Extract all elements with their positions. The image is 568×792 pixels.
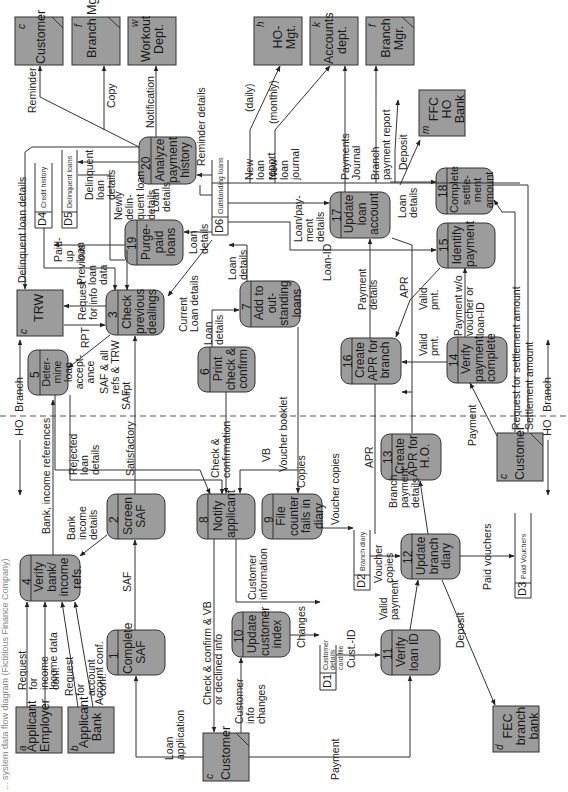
- entity-letter: c: [499, 474, 510, 479]
- entity-ffc-ho-bank[interactable]: FFC HO Bank: [428, 93, 467, 125]
- flow-request-for-info: Request for info: [77, 278, 99, 320]
- process-2-screen-saf[interactable]: Screen SAF: [122, 494, 147, 538]
- flow-daily: (daily): [244, 83, 255, 112]
- flow-vb: VB: [261, 448, 272, 462]
- flow-copy: Copy: [106, 83, 117, 108]
- flow-saf-3: SAF: [121, 390, 132, 410]
- entity-workout-dept[interactable]: Workout Dept.: [140, 16, 166, 62]
- process-4-verify-bank-income-refs[interactable]: Verify bank/ income refs.: [33, 554, 83, 600]
- process-18-complete-settlement-amount[interactable]: Complete settle- ment amount: [449, 167, 495, 213]
- process-16-create-apr-for-branch[interactable]: Create APR for branch: [354, 337, 392, 383]
- flow-voucher-copies-12: Voucher copies: [373, 547, 395, 583]
- entity-ho-mgt[interactable]: HO-Mgt.: [272, 19, 298, 55]
- flow-loan-details-6: Loan details: [203, 315, 225, 345]
- datastore-d4-credit-history[interactable]: Credit history: [40, 167, 47, 208]
- flow-request-settlement: Request for settlement amount: [511, 286, 522, 430]
- process-number: 2: [108, 516, 121, 523]
- flow-loan-payment-details: Loan/pay- ment details: [293, 192, 326, 242]
- flow-loan-details-19: Loan details: [188, 224, 210, 254]
- process-7-add-to-outstanding-loans[interactable]: Add to out- standing loans: [253, 280, 303, 326]
- label-branch-left: Branch: [14, 377, 26, 412]
- flow-branch-payment-details: Branch payment details: [388, 464, 421, 508]
- process-20-analyze-payment-history[interactable]: Analyze payment history: [154, 137, 192, 183]
- figure-caption: ... system data flow diagram (Fictitious…: [1, 558, 10, 790]
- entity-letter: m: [421, 126, 432, 134]
- process-number: 15: [438, 239, 451, 252]
- flow-payment-wo-voucher: Payment w/o voucher or loan-ID: [453, 272, 486, 336]
- process-10-update-customer-index[interactable]: Update customer index: [246, 612, 284, 656]
- flow-current-loan-details: Current Loan details: [178, 272, 200, 332]
- datastore-d5-delinquent-loans[interactable]: Delinquent loans: [66, 156, 73, 208]
- flow-bank-income-details: Bank income details: [66, 500, 99, 540]
- flow-cust-id: Cust.-ID: [346, 629, 357, 668]
- process-19-purge-paid-loans[interactable]: Purge- paid loans: [140, 220, 178, 264]
- flow-loan-details-20: Loan details: [150, 182, 172, 212]
- process-number: 10: [233, 630, 246, 643]
- entity-customer-top[interactable]: Customer: [35, 10, 48, 64]
- flow-check-confirm-vb: Check & confirm & VB or declined info: [202, 595, 224, 705]
- entity-letter: f: [74, 24, 85, 27]
- flow-loan-details-18: Loan details: [397, 188, 419, 218]
- entity-accounts-dept[interactable]: Accounts dept.: [323, 16, 349, 64]
- process-3-check-previous-dealings[interactable]: Check previous dealings: [121, 290, 159, 334]
- flow-bank-income-refs: Bank, income references: [41, 418, 52, 534]
- flow-valid-pmt-2: Valid pmt.: [418, 326, 440, 356]
- datastore-id: D1: [322, 674, 334, 688]
- flow-valid-pmt-1: Valid pmt.: [418, 280, 440, 310]
- datastore-d3-paid-vouchers[interactable]: Paid Vouchers: [520, 534, 527, 579]
- process-5-determine-loan-acceptance[interactable]: Deter- mine loan accept- ance: [41, 350, 96, 394]
- entity-customer-bottom[interactable]: Customer: [220, 726, 233, 780]
- process-number: 1: [108, 652, 121, 659]
- process-8-notify-applicant[interactable]: Notify applicant: [212, 494, 237, 538]
- datastore-id: D6: [214, 219, 226, 233]
- flow-saf-2: SAF: [122, 572, 133, 592]
- flow-loan-id: Loan-ID: [322, 244, 333, 281]
- entity-branch-mgr-top[interactable]: Branch Mgr.: [86, 18, 99, 58]
- process-11-verify-loan-id[interactable]: Verify loan ID: [395, 630, 420, 674]
- flow-notification: Notification: [145, 76, 156, 128]
- entity-letter: h: [256, 21, 267, 27]
- process-number: 11: [382, 648, 395, 660]
- process-1-complete-saf[interactable]: Complete SAF: [122, 630, 147, 674]
- flow-changes: Changes: [296, 606, 307, 648]
- flow-payment-14: Payment: [467, 405, 478, 446]
- flow-copies: Copies: [296, 455, 307, 488]
- process-14-verify-payment-complete[interactable]: Verify payment complete: [460, 336, 498, 382]
- flow-deposit-top: Deposit: [398, 134, 409, 170]
- process-9-file-counter-fails[interactable]: File counter fails in diary: [275, 494, 325, 538]
- flow-customer-information: Customer information: [247, 546, 269, 600]
- datastore-d6-outstanding-loans[interactable]: Outstanding loans: [217, 158, 224, 214]
- datastore-id: D5: [63, 212, 75, 226]
- flow-loan-details-7: Loan details: [227, 250, 249, 280]
- flow-new-loan-journal: New loan journal: [268, 144, 301, 180]
- flow-payments-journal: Payments Journal: [340, 140, 362, 180]
- flow-voucher-booklet: Voucher booklet: [278, 394, 289, 472]
- entity-applicant-bank[interactable]: Applicant Bank: [78, 706, 104, 748]
- entity-branch-mgr-right[interactable]: Branch Mgr.: [380, 18, 406, 58]
- process-number: 3: [107, 311, 120, 318]
- datastore-id: D2: [356, 574, 368, 588]
- entity-customer-right[interactable]: Customer: [514, 426, 527, 480]
- process-6-print-check-confirm[interactable]: Print check & confirm: [212, 347, 250, 391]
- flow-reminder: Reminder: [27, 67, 38, 113]
- datastore-d2-branch-diary[interactable]: Branch diary: [359, 532, 366, 571]
- process-12-update-branch-diary[interactable]: Update branch diary: [415, 534, 453, 578]
- flow-paid-vouchers: Paid vouchers: [482, 523, 493, 590]
- process-15-identify-payment[interactable]: Identify payment: [451, 223, 476, 267]
- datastore-d1-customer-details[interactable]: Customer details card file: [322, 644, 344, 670]
- flow-customer-info-changes: Customer info changes: [234, 674, 267, 724]
- datastore-id: D3: [517, 582, 529, 596]
- process-17-update-loan-account[interactable]: Update loan account: [343, 191, 381, 237]
- label-branch-right: Branch: [542, 377, 554, 412]
- flow-reminder-details: Reminder details: [196, 87, 207, 166]
- flow-rejected-loan-details: Rejected loan details: [68, 435, 101, 475]
- flow-payment-bottom: Payment: [330, 739, 341, 780]
- flow-rpt: RPT: [80, 327, 91, 348]
- flow-loan-application: Loan application: [164, 714, 186, 760]
- entity-letter: k: [312, 22, 323, 27]
- entity-trw[interactable]: TRW: [33, 294, 46, 322]
- entity-letter: c: [19, 329, 30, 334]
- entity-fec-branch-bank[interactable]: FEC branch bank: [502, 706, 541, 746]
- process-number: 19: [126, 237, 139, 250]
- entity-applicant-employer[interactable]: Applicant Employer: [26, 706, 52, 752]
